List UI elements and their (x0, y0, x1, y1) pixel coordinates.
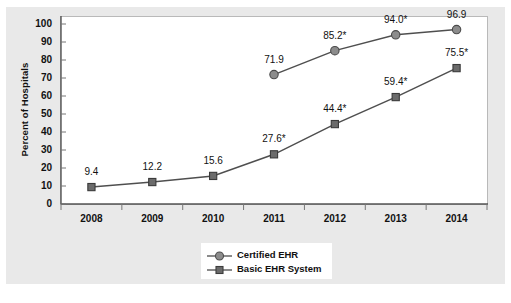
series-group (88, 25, 461, 190)
square-marker-icon (206, 262, 233, 274)
legend-item-certified-ehr[interactable]: Certified EHR (206, 247, 326, 261)
legend-label-basic-ehr-system: Basic EHR System (233, 263, 321, 274)
chart-figure: Percent of Hospitals 0102030405060708090… (0, 0, 511, 303)
axes-group (61, 16, 488, 210)
chart-legend: Certified EHR Basic EHR System (201, 243, 332, 279)
circle-marker-icon (206, 248, 233, 260)
legend-item-basic-ehr-system[interactable]: Basic EHR System (206, 261, 326, 275)
legend-label-certified-ehr: Certified EHR (233, 249, 298, 260)
